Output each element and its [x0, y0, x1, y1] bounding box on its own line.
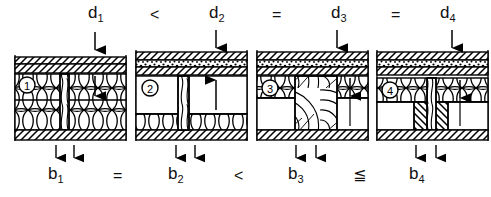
layer-hatch-top-2: [15, 64, 126, 73]
layer-hatch-bottom: [136, 130, 247, 140]
layer-gravel: [136, 60, 247, 67]
panel-1: 1: [15, 32, 126, 158]
panel-3: 3: [257, 30, 368, 158]
stud-timber: [60, 74, 69, 130]
layer-hatch-top-1: [136, 52, 247, 60]
layer-insulation-lower: [136, 114, 247, 130]
layer-hatch-top-1: [377, 52, 488, 60]
layer-gravel: [257, 60, 368, 67]
cross-section-drawing: 1: [0, 0, 491, 197]
layer-hatch-bottom: [257, 130, 368, 140]
flank-block-left: [414, 102, 428, 130]
layer-hatch-top-1: [257, 52, 368, 60]
panel-4-badge-number: 4: [387, 85, 393, 97]
layer-hatch-top-1: [15, 57, 126, 64]
layer-hatch-top-2: [257, 67, 368, 75]
panel-2-badge-number: 2: [147, 83, 153, 95]
panel-2: 2: [136, 30, 247, 158]
layer-gravel: [377, 60, 488, 67]
stud-timber: [178, 76, 189, 130]
diagram-canvas: d1 < d2 = d3 = d4 b1 = b2 < b3 ≦ b4: [0, 0, 491, 197]
panel-4: 4: [377, 30, 488, 158]
panel-1-badge-number: 1: [24, 80, 30, 92]
layer-hatch-bottom: [377, 130, 488, 140]
panel-3-badge-number: 3: [267, 83, 273, 95]
stud-timber: [427, 78, 436, 130]
layer-hatch-top-2: [136, 67, 247, 75]
layer-hatch-top-2: [377, 67, 488, 75]
layer-hatch-bottom: [15, 130, 126, 140]
stud-timber-wide: [295, 76, 337, 130]
